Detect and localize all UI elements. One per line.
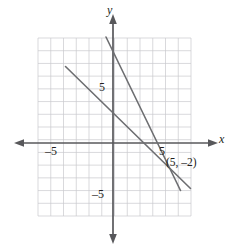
- x-tick-label-5: 5: [159, 145, 165, 157]
- line-2: [66, 67, 191, 189]
- y-axis-arrow-down: [109, 234, 117, 244]
- coordinate-plane-figure: y x 5 –5 5 –5 (5, –2): [0, 0, 233, 247]
- graph-canvas: [0, 0, 233, 247]
- x-axis-arrow-left: [14, 139, 24, 147]
- y-tick-label-negative-5: –5: [92, 188, 104, 200]
- y-tick-label-5: 5: [99, 81, 105, 93]
- y-axis-label: y: [107, 4, 112, 16]
- x-tick-label-negative-5: –5: [45, 145, 57, 157]
- x-axis-arrow-right: [208, 139, 218, 147]
- y-axis: [109, 14, 117, 244]
- intersection-point-label: (5, –2): [166, 157, 197, 169]
- grid-lines: [38, 38, 191, 216]
- x-axis-label: x: [219, 133, 224, 145]
